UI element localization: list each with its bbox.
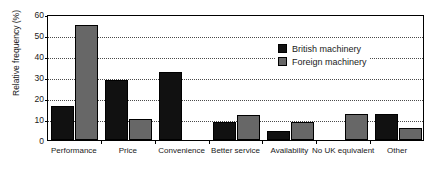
x-tick-label: Convenience	[158, 146, 205, 155]
bar	[237, 115, 260, 140]
bar	[75, 25, 98, 141]
bar	[51, 106, 74, 140]
y-tick-label: 50	[20, 32, 44, 41]
bar	[399, 128, 422, 140]
bar-group	[317, 16, 371, 140]
bar-chart-figure: Relative frequency (%) 0102030405060 Per…	[0, 0, 437, 171]
plot-area	[47, 15, 424, 141]
y-tick-label: 40	[20, 53, 44, 62]
bar-group	[102, 16, 156, 140]
bar-groups	[48, 16, 423, 140]
bar-group	[48, 16, 102, 140]
legend-item-british: British machinery	[278, 42, 367, 55]
bar	[105, 80, 128, 140]
bar	[375, 114, 398, 140]
legend-label-foreign: Foreign machinery	[292, 57, 367, 67]
bar-group	[156, 16, 210, 140]
bar	[345, 114, 368, 140]
bar	[213, 122, 236, 140]
x-tick-mark	[155, 141, 156, 144]
bar-group	[210, 16, 264, 140]
legend-item-foreign: Foreign machinery	[278, 55, 367, 68]
bar	[291, 122, 314, 140]
x-tick-label: Better service	[211, 146, 260, 155]
x-tick-mark	[101, 141, 102, 144]
x-tick-label: Price	[119, 146, 137, 155]
x-tick-label: Performance	[51, 146, 97, 155]
chart-legend: British machinery Foreign machinery	[276, 40, 370, 70]
bar	[267, 131, 290, 140]
x-axis-tick-marks	[47, 141, 424, 145]
y-axis-tick-labels: 0102030405060	[20, 15, 44, 141]
x-axis-tick-labels: PerformancePriceConvenienceBetter servic…	[47, 146, 424, 160]
x-tick-mark	[262, 141, 263, 144]
x-tick-mark	[316, 141, 317, 144]
x-tick-label: Other	[387, 146, 407, 155]
x-tick-label: Availability	[271, 146, 309, 155]
bar	[129, 119, 152, 140]
bar	[159, 72, 182, 140]
y-tick-label: 60	[20, 11, 44, 20]
y-tick-label: 0	[20, 137, 44, 146]
black-square-swatch-icon	[278, 44, 287, 53]
y-tick-label: 30	[20, 74, 44, 83]
legend-label-british: British machinery	[292, 44, 361, 54]
bar-group	[371, 16, 425, 140]
x-tick-mark	[209, 141, 210, 144]
bar-group	[263, 16, 317, 140]
y-tick-label: 10	[20, 116, 44, 125]
gray-square-swatch-icon	[278, 57, 287, 66]
x-tick-label: No UK equivalent	[312, 146, 374, 155]
x-tick-mark	[370, 141, 371, 144]
y-tick-label: 20	[20, 95, 44, 104]
